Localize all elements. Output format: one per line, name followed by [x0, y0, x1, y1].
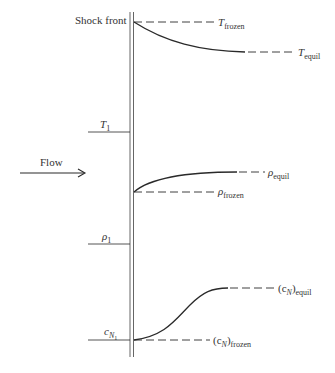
flow-arrow-icon: [20, 169, 85, 177]
rho1-label: ρ1: [102, 231, 111, 242]
flow-label: Flow: [40, 157, 63, 168]
cn-frozen-label: (cN)frozen: [213, 335, 251, 346]
cn-equil-curve: [134, 288, 228, 340]
rho-equil-label: ρequil: [268, 167, 289, 178]
shock-front-line: [130, 12, 134, 357]
t1-label: T1: [100, 119, 110, 130]
temperature-curves: [88, 22, 295, 132]
t-frozen-label: Tfrozen: [218, 17, 245, 28]
t-equil-label: Tequil: [298, 47, 320, 58]
shock-front-label: Shock front: [75, 15, 127, 26]
cn1-label: cN1: [104, 326, 117, 337]
rho-frozen-label: ρfrozen: [218, 186, 244, 197]
cn-equil-label: (cN)equil: [278, 283, 312, 294]
diagram-canvas: [0, 0, 335, 373]
density-curves: [88, 172, 265, 244]
